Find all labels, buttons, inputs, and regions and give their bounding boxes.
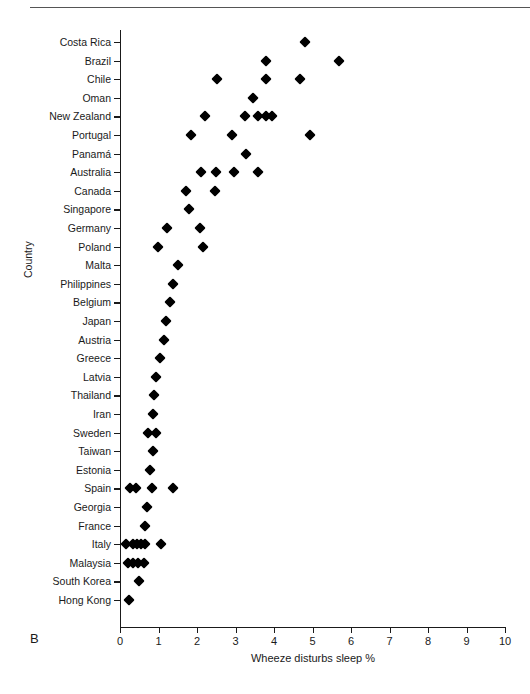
y-axis-tick (114, 581, 120, 582)
y-axis-tick (114, 209, 120, 210)
y-axis-tick (114, 61, 120, 62)
y-axis-tick-label: Italy (92, 539, 111, 550)
y-axis-tick-label: New Zealand (49, 111, 111, 122)
data-point (183, 204, 194, 215)
y-axis-tick-label: Greece (77, 353, 111, 364)
y-axis-tick-label: Belgium (73, 297, 111, 308)
y-axis-tick-label: Canada (74, 185, 111, 196)
y-axis-tick-label: Iran (93, 409, 111, 420)
y-axis-tick (114, 116, 120, 117)
data-point (180, 185, 191, 196)
y-axis-tick-label: Austria (78, 334, 111, 345)
x-axis-tick (467, 627, 468, 633)
y-axis-tick-label: Germany (68, 223, 111, 234)
y-axis-tick (114, 488, 120, 489)
data-point (167, 278, 178, 289)
data-point (139, 520, 150, 531)
y-axis-tick-label: Malta (85, 260, 111, 271)
data-point (151, 371, 162, 382)
y-axis-tick (114, 228, 120, 229)
x-axis-tick (120, 627, 121, 633)
data-point (247, 92, 258, 103)
x-axis-tick-label: 8 (425, 635, 431, 647)
y-axis-title: Country (22, 241, 34, 278)
data-point (194, 222, 205, 233)
data-point (334, 55, 345, 66)
x-axis-tick-label: 1 (155, 635, 161, 647)
data-point (240, 148, 251, 159)
data-point (154, 353, 165, 364)
data-point (160, 315, 171, 326)
x-axis-tick-label: 10 (499, 635, 511, 647)
data-point (155, 539, 166, 550)
data-point (197, 241, 208, 252)
data-point (134, 576, 145, 587)
data-point (226, 129, 237, 140)
x-axis-tick (505, 627, 506, 633)
y-axis-tick-label: Georgia (74, 502, 111, 513)
y-axis-tick (114, 321, 120, 322)
y-axis-tick (114, 172, 120, 173)
y-axis-tick-label: Spain (84, 483, 111, 494)
data-point (260, 74, 271, 85)
y-axis-tick (114, 600, 120, 601)
x-axis-tick (390, 627, 391, 633)
data-point (124, 594, 135, 605)
y-axis-tick-label: Panamá (72, 148, 111, 159)
y-axis-tick (114, 544, 120, 545)
y-axis-tick-label: Poland (78, 241, 111, 252)
data-point (141, 501, 152, 512)
x-axis-tick (351, 627, 352, 633)
x-axis-tick-label: 7 (386, 635, 392, 647)
data-point (150, 427, 161, 438)
x-axis-tick-label: 0 (117, 635, 123, 647)
data-point (252, 167, 263, 178)
x-axis-tick-label: 6 (348, 635, 354, 647)
data-point (195, 167, 206, 178)
y-axis-tick (114, 470, 120, 471)
y-axis-tick (114, 79, 120, 80)
y-axis-tick-label: Japan (82, 316, 111, 327)
y-axis-tick (114, 414, 120, 415)
y-axis-tick (114, 265, 120, 266)
data-point (147, 446, 158, 457)
y-axis-tick (114, 340, 120, 341)
y-axis-tick-label: Malaysia (70, 557, 111, 568)
y-axis-tick (114, 377, 120, 378)
x-axis-tick (313, 627, 314, 633)
y-axis-tick-label: Latvia (83, 371, 111, 382)
y-axis-tick-label: Brazil (85, 55, 111, 66)
y-axis-tick-label: Chile (87, 74, 111, 85)
y-axis-tick (114, 135, 120, 136)
data-point (299, 36, 310, 47)
y-axis-tick (114, 98, 120, 99)
y-axis-tick (114, 451, 120, 452)
data-point (211, 74, 222, 85)
y-axis-tick (114, 358, 120, 359)
data-point (130, 483, 141, 494)
data-point (185, 129, 196, 140)
y-axis-tick (114, 154, 120, 155)
data-point (148, 390, 159, 401)
y-axis-tick-label: Singapore (63, 204, 111, 215)
data-point (144, 464, 155, 475)
x-axis-tick (274, 627, 275, 633)
x-axis-tick-label: 5 (309, 635, 315, 647)
y-axis-tick (114, 247, 120, 248)
y-axis-tick-label: Philippines (60, 278, 111, 289)
data-point (210, 167, 221, 178)
y-axis-tick-label: Australia (70, 167, 111, 178)
y-axis-tick (114, 302, 120, 303)
top-divider-rule (30, 7, 530, 8)
y-axis-tick-label: Hong Kong (58, 595, 111, 606)
plot-area: Costa RicaBrazilChileOmanNew ZealandPort… (120, 30, 506, 628)
x-axis-tick (428, 627, 429, 633)
panel-label: B (30, 631, 39, 646)
y-axis-tick (114, 507, 120, 508)
x-axis-title: Wheeze disturbs sleep % (120, 652, 506, 664)
data-point (147, 408, 158, 419)
y-axis-tick-label: Sweden (73, 427, 111, 438)
y-axis-tick (114, 526, 120, 527)
y-axis-tick-label: Estonia (76, 464, 111, 475)
y-axis-tick (114, 563, 120, 564)
